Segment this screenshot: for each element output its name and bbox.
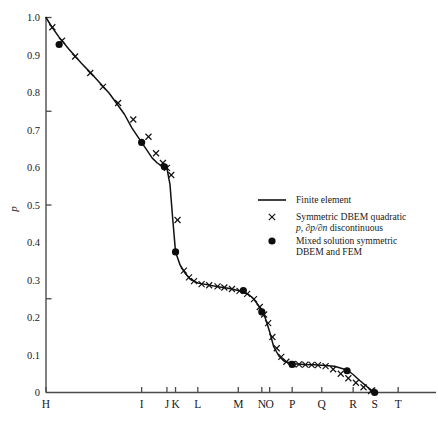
data-marker-x — [87, 70, 93, 76]
data-marker-x — [100, 84, 106, 90]
legend-text-segment: Symmetric DBEM quadratic — [296, 211, 406, 222]
chart-figure: 00.10.20.30.40.50.60.70.80.91.0 HIJKLMNO… — [0, 0, 438, 431]
data-marker-x — [251, 296, 257, 302]
legend-entry-line: Mixed solution symmetric — [296, 235, 397, 246]
data-marker-dot — [138, 139, 145, 146]
legend-entry-label: Mixed solution symmetricDBEM and FEM — [296, 235, 397, 258]
y-tick-label: 0.2 — [27, 312, 40, 323]
y-axis: 00.10.20.30.40.50.60.70.80.91.0 — [27, 12, 52, 398]
data-marker-x — [181, 268, 187, 274]
x-tick-label: Q — [318, 398, 327, 410]
y-tick-label: 1.0 — [27, 12, 40, 23]
data-marker-x — [338, 371, 344, 377]
x-tick-label: M — [233, 398, 243, 410]
data-marker-dot — [240, 287, 247, 294]
data-marker-dot — [56, 41, 63, 48]
legend-markers — [258, 200, 286, 245]
x-tick-label: T — [395, 398, 402, 410]
data-marker-x — [345, 375, 351, 381]
legend-entry-label: Symmetric DBEM quadraticp, ∂p/∂n discont… — [296, 211, 406, 234]
legend-text-segment: Mixed solution symmetric — [296, 235, 397, 246]
legend-marker-x — [269, 214, 275, 220]
y-tick-label: 0.4 — [27, 237, 41, 248]
data-marker-dot — [161, 163, 168, 170]
data-marker-x — [175, 217, 181, 223]
data-marker-x — [168, 172, 174, 178]
data-marker-x — [72, 54, 78, 60]
x-tick-label: I — [140, 398, 144, 410]
legend-entry-line: Symmetric DBEM quadratic — [296, 211, 406, 222]
y-tick-label: 0.9 — [27, 50, 40, 61]
legend-text-segment: Finite element — [296, 194, 351, 205]
legend-marker-dot — [268, 237, 275, 244]
y-tick-label: 0.3 — [27, 275, 40, 286]
data-marker-x — [191, 278, 197, 284]
y-tick-label: 0 — [35, 387, 40, 398]
x-tick-label: J — [165, 398, 170, 410]
x-tick-label: O — [265, 398, 273, 410]
y-axis-tick-labels: 00.10.20.30.40.50.60.70.80.91.0 — [27, 12, 41, 398]
data-marker-x — [361, 384, 367, 390]
legend-text-segment: ∂p/∂n — [306, 222, 328, 233]
y-tick-label: 0.7 — [27, 125, 40, 136]
y-tick-label: 0.5 — [27, 200, 40, 211]
data-marker-x — [186, 274, 192, 280]
x-tick-label: R — [349, 398, 357, 410]
x-axis-ticks — [46, 387, 398, 393]
x-tick-label: S — [371, 398, 377, 410]
legend-entry-label: Finite element — [296, 194, 351, 205]
x-tick-label: L — [194, 398, 201, 410]
x-tick-label: H — [42, 398, 50, 410]
data-marker-dot — [371, 389, 378, 396]
legend-entry-line: Finite element — [296, 194, 351, 205]
x-tick-label: K — [171, 398, 180, 410]
legend-text-segment: discontinuous — [327, 222, 383, 233]
data-marker-dot — [172, 248, 179, 255]
x-axis-tick-labels: HIJKLMNOPQRST — [42, 398, 402, 410]
y-axis-title: p — [7, 206, 19, 213]
data-marker-x — [145, 134, 151, 140]
x-tick-label: P — [289, 398, 295, 410]
data-marker-x — [49, 24, 55, 30]
data-marker-x — [153, 150, 159, 156]
data-marker-x — [130, 117, 136, 123]
legend-entry-line: p, ∂p/∂n discontinuous — [296, 222, 406, 233]
data-marker-dot — [258, 308, 265, 315]
y-tick-label: 0.6 — [27, 162, 40, 173]
data-marker-dot — [343, 367, 350, 374]
data-marker-dot — [289, 361, 296, 368]
legend-entry-line: DBEM and FEM — [296, 246, 397, 257]
data-marker-x — [330, 366, 336, 372]
legend-text-segment: DBEM and FEM — [296, 246, 362, 257]
data-marker-x — [353, 380, 359, 386]
y-tick-label: 0.1 — [27, 350, 40, 361]
y-tick-label: 0.8 — [27, 87, 40, 98]
